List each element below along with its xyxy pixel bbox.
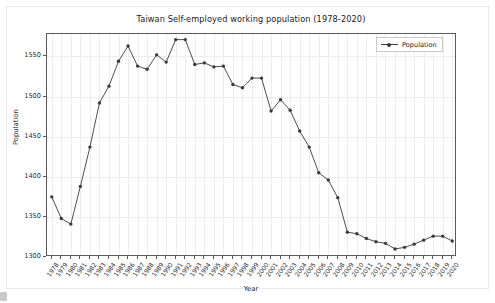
x-tick-mark [89,256,90,259]
data-point [298,129,301,132]
legend-marker-icon [381,41,398,48]
data-point [422,238,425,241]
x-tick-mark [118,256,119,259]
data-point [193,63,196,66]
data-point [155,53,158,56]
data-point [184,38,187,41]
x-tick-mark [299,256,300,259]
x-tick-mark [79,256,80,259]
data-point [412,242,415,245]
x-tick-mark [203,256,204,259]
x-tick-mark [261,256,262,259]
data-point [336,196,339,199]
x-tick-mark [213,256,214,259]
data-point [384,242,387,245]
chart-title: Taiwan Self-employed working population … [46,14,456,24]
data-point [355,232,358,235]
x-tick-mark [175,256,176,259]
data-point [79,185,82,188]
series-markers-population [50,38,454,251]
y-tick-mark [43,256,46,257]
x-tick-mark [280,256,281,259]
x-tick-mark [356,256,357,259]
data-point [441,234,444,237]
x-tick-mark [156,256,157,259]
data-point [288,109,291,112]
y-tick-label: 1400 [24,172,41,180]
x-tick-mark [404,256,405,259]
data-point [250,76,253,79]
data-point [174,38,177,41]
data-point [69,222,72,225]
x-tick-mark [98,256,99,259]
y-tick-label: 1500 [24,92,41,100]
x-tick-mark [451,256,452,259]
data-point [365,237,368,240]
x-tick-mark [251,256,252,259]
x-tick-mark [327,256,328,259]
data-point [317,171,320,174]
x-tick-mark [70,256,71,259]
x-tick-mark [289,256,290,259]
x-tick-mark [137,256,138,259]
x-tick-mark [346,256,347,259]
x-tick-mark [51,256,52,259]
y-tick-label: 1450 [24,132,41,140]
data-point [50,195,53,198]
x-tick-mark [375,256,376,259]
x-tick-mark [423,256,424,259]
x-tick-mark [108,256,109,259]
data-point [98,101,101,104]
data-point [279,98,282,101]
x-tick-mark [146,256,147,259]
x-tick-mark [194,256,195,259]
data-point [241,86,244,89]
series-line-population [52,40,452,249]
x-tick-mark [318,256,319,259]
data-point [107,84,110,87]
data-point [269,109,272,112]
y-tick-mark [43,55,46,56]
data-point [222,64,225,67]
data-point [451,239,454,242]
data-point [327,178,330,181]
x-tick-mark [241,256,242,259]
y-tick-label: 1350 [24,212,41,220]
data-point [260,76,263,79]
data-point [393,247,396,250]
y-tick-mark [43,216,46,217]
data-point [212,65,215,68]
x-tick-mark [365,256,366,259]
plot-area [46,33,456,256]
x-axis-label: Year [46,285,456,293]
x-tick-mark [165,256,166,259]
x-tick-mark [232,256,233,259]
data-point [164,60,167,63]
data-point [136,64,139,67]
data-point [203,61,206,64]
data-point [374,240,377,243]
data-point [60,217,63,220]
y-tick-mark [43,96,46,97]
y-tick-label: 1300 [24,252,41,260]
plot-inner [47,34,455,255]
y-tick-mark [43,136,46,137]
data-point [88,145,91,148]
data-point [126,44,129,47]
series-population [47,34,455,255]
x-tick-mark [442,256,443,259]
data-point [346,230,349,233]
corner-artifact [0,292,7,301]
data-point [231,83,234,86]
x-tick-mark [308,256,309,259]
data-point [403,246,406,249]
legend-entry-label: Population [402,41,437,49]
chart-figure: Taiwan Self-employed working population … [0,0,495,303]
data-point [145,68,148,71]
x-tick-mark [184,256,185,259]
y-axis-label: Population [12,109,20,145]
x-tick-mark [222,256,223,259]
x-tick-mark [384,256,385,259]
x-tick-mark [432,256,433,259]
y-tick-label: 1550 [24,51,41,59]
